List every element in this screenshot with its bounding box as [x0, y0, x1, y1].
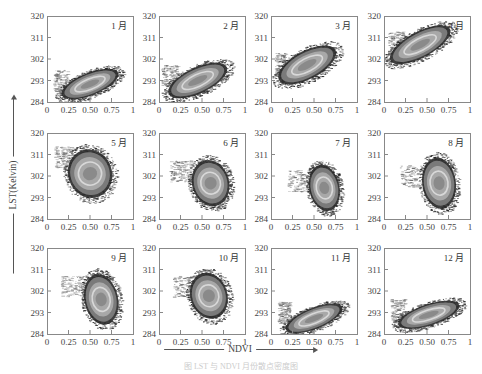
x-tick-label: 0 [45, 105, 50, 115]
y-tick-label: 284 [255, 97, 269, 107]
y-axis-label-text: LST(Kelvin) [8, 160, 18, 209]
y-tick-label: 320 [368, 128, 382, 138]
y-tick-label: 284 [31, 329, 45, 339]
month-label: 11 月 [331, 253, 351, 263]
density-cloud [61, 268, 124, 329]
x-tick-label: 1 [131, 105, 136, 115]
month-label: 3 月 [335, 21, 351, 31]
y-tick-label: 311 [255, 33, 268, 43]
x-tick-label: 0 [382, 222, 387, 232]
y-tick-label: 293 [31, 193, 45, 203]
month-label: 9 月 [111, 253, 127, 263]
y-tick-label: 311 [143, 33, 156, 43]
panel-month-1: 28429330231132000.250.500.7511 月 [31, 11, 136, 115]
y-tick-label: 293 [143, 193, 157, 203]
y-tick-label: 293 [255, 193, 269, 203]
panel-month-11: 28429330231132000.250.500.75111 月 [255, 243, 360, 347]
y-tick-label: 302 [31, 171, 45, 181]
x-tick-label: 0.25 [173, 222, 189, 232]
x-axis-label-text: NDVI [228, 344, 252, 354]
y-tick-label: 320 [143, 11, 157, 21]
x-tick-label: 0.50 [306, 105, 322, 115]
y-tick-label: 293 [255, 76, 269, 86]
y-tick-label: 293 [368, 76, 382, 86]
x-tick-label: 0.25 [285, 105, 301, 115]
y-tick-label: 311 [143, 265, 156, 275]
x-tick-label: 0.25 [173, 105, 189, 115]
x-tick-label: 0.75 [216, 222, 232, 232]
y-tick-label: 293 [368, 193, 382, 203]
density-cloud [288, 161, 346, 217]
y-tick-label: 302 [368, 54, 382, 64]
y-axis-label: LST(Kelvin) [8, 96, 18, 273]
month-label: 2 月 [223, 21, 239, 31]
panel-month-9: 28429330231132000.250.500.7519 月 [31, 243, 136, 347]
month-label: 12 月 [444, 253, 464, 263]
y-axis-label-container: LST(Kelvin) [6, 70, 20, 300]
y-tick-label: 302 [31, 54, 45, 64]
y-tick-label: 284 [368, 329, 382, 339]
x-axis-label: NDVI [164, 344, 316, 354]
y-tick-label: 284 [31, 214, 45, 224]
density-cloud [173, 268, 235, 325]
x-tick-label: 0 [269, 105, 274, 115]
x-tick-label: 0.75 [328, 222, 344, 232]
month-label: 5 月 [111, 138, 127, 148]
y-tick-label: 311 [143, 150, 156, 160]
x-tick-label: 1 [355, 105, 360, 115]
panel-month-12: 28429330231132000.250.500.75112 月 [368, 243, 473, 347]
y-tick-label: 320 [31, 11, 45, 21]
x-tick-label: 0.50 [419, 222, 435, 232]
y-tick-label: 293 [143, 76, 157, 86]
x-tick-label: 0.50 [82, 222, 98, 232]
x-tick-label: 0.25 [398, 222, 414, 232]
density-cloud [54, 143, 119, 204]
y-tick-label: 320 [368, 11, 382, 21]
x-tick-label: 0 [157, 337, 162, 347]
x-tick-label: 1 [131, 222, 136, 232]
panel-month-10: 28429330231132000.250.500.75110 月 [143, 243, 248, 347]
x-tick-label: 1 [355, 337, 360, 347]
x-tick-label: 0 [269, 222, 274, 232]
x-tick-label: 0.50 [82, 337, 98, 347]
y-tick-label: 284 [255, 214, 269, 224]
figure-caption: 图 LST 与 NDVI 月份散点密度图 [0, 360, 482, 371]
y-tick-label: 302 [255, 54, 269, 64]
x-tick-label: 0.50 [194, 105, 210, 115]
y-axis-arrow-icon [13, 96, 14, 156]
y-tick-label: 302 [143, 286, 157, 296]
x-tick-label: 0.25 [61, 105, 77, 115]
y-tick-label: 302 [368, 286, 382, 296]
month-label: 4 月 [448, 21, 464, 31]
x-tick-label: 0.75 [441, 337, 457, 347]
month-label: 6 月 [223, 138, 239, 148]
x-tick-label: 0.25 [398, 105, 414, 115]
y-tick-label: 293 [255, 308, 269, 318]
x-tick-label: 0 [157, 222, 162, 232]
panel-month-8: 28429330231132000.250.500.7518 月 [368, 128, 473, 232]
panel-month-2: 28429330231132000.250.500.7512 月 [143, 11, 248, 115]
y-tick-label: 320 [255, 11, 269, 21]
x-tick-label: 0.25 [285, 222, 301, 232]
density-cloud [272, 38, 344, 93]
y-tick-label: 284 [143, 214, 157, 224]
y-tick-label: 284 [31, 97, 45, 107]
y-tick-label: 293 [143, 308, 157, 318]
y-tick-label: 302 [255, 286, 269, 296]
y-tick-label: 311 [368, 33, 381, 43]
figure-canvas: 28429330231132000.250.500.7511 月28429330… [0, 0, 482, 374]
month-label: 7 月 [335, 138, 351, 148]
y-tick-label: 320 [255, 243, 269, 253]
y-tick-label: 320 [143, 243, 157, 253]
x-tick-label: 0.75 [216, 105, 232, 115]
y-tick-label: 311 [31, 265, 44, 275]
y-tick-label: 311 [368, 150, 381, 160]
y-tick-label: 311 [368, 265, 381, 275]
y-tick-label: 302 [368, 171, 382, 181]
density-cloud [390, 295, 467, 335]
y-tick-label: 284 [143, 329, 157, 339]
y-tick-label: 311 [255, 150, 268, 160]
y-tick-label: 284 [255, 329, 269, 339]
y-tick-label: 311 [31, 150, 44, 160]
x-tick-label: 0 [157, 105, 162, 115]
